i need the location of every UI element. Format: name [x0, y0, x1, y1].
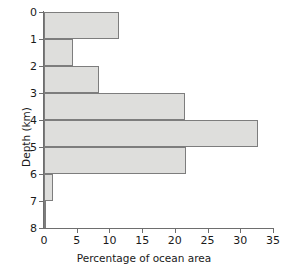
- x-tick-label: 10: [102, 235, 116, 246]
- y-tick: [39, 201, 44, 202]
- x-tick-label: 15: [135, 235, 149, 246]
- x-tick: [142, 228, 143, 233]
- y-tick-label: 2: [30, 61, 37, 72]
- y-tick: [39, 147, 44, 148]
- y-tick: [39, 174, 44, 175]
- x-tick: [175, 228, 176, 233]
- bar: [44, 12, 119, 39]
- x-axis-title: Percentage of ocean area: [0, 252, 288, 264]
- y-tick: [39, 66, 44, 67]
- y-tick: [39, 12, 44, 13]
- x-tick: [273, 228, 274, 233]
- bar: [44, 39, 73, 66]
- bar: [44, 120, 258, 147]
- bar: [44, 147, 186, 174]
- y-tick-label: 8: [30, 223, 37, 234]
- bar: [44, 201, 46, 228]
- y-tick: [39, 93, 44, 94]
- y-tick: [39, 228, 44, 229]
- x-tick-label: 25: [201, 235, 215, 246]
- y-tick-label: 0: [30, 7, 37, 18]
- bar: [44, 93, 185, 120]
- x-tick-label: 30: [233, 235, 247, 246]
- x-tick-label: 0: [41, 235, 48, 246]
- x-tick: [240, 228, 241, 233]
- x-tick-label: 35: [266, 235, 280, 246]
- y-tick: [39, 120, 44, 121]
- x-tick: [208, 228, 209, 233]
- chart-figure: 012345678 05101520253035 Depth (km) Perc…: [0, 0, 288, 274]
- y-axis-title: Depth (km): [20, 107, 32, 167]
- bar: [44, 66, 99, 93]
- x-tick-label: 20: [168, 235, 182, 246]
- plot-area: 012345678 05101520253035: [44, 12, 273, 228]
- y-tick: [39, 39, 44, 40]
- bar: [44, 174, 53, 201]
- x-tick: [109, 228, 110, 233]
- y-tick-label: 7: [30, 196, 37, 207]
- x-tick-label: 5: [73, 235, 80, 246]
- y-tick-label: 6: [30, 169, 37, 180]
- x-tick: [77, 228, 78, 233]
- y-tick-label: 3: [30, 88, 37, 99]
- y-tick-label: 1: [30, 34, 37, 45]
